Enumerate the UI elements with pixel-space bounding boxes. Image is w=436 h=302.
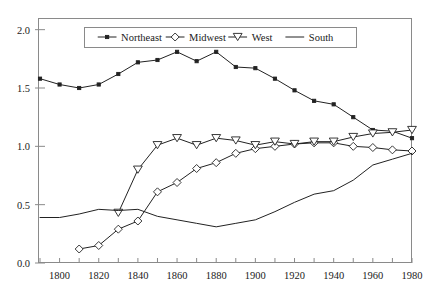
chart-legend: NortheastMidwestWestSouth [85, 28, 357, 48]
marker-filled-square [117, 72, 120, 75]
y-tick-label: 0.0 [17, 258, 30, 269]
x-tick-label: 1980 [402, 270, 423, 281]
marker-filled-square [106, 35, 109, 38]
marker-filled-square [313, 99, 316, 102]
marker-filled-square [136, 61, 139, 64]
x-tick-label: 1880 [206, 270, 227, 281]
x-tick-label: 1820 [88, 270, 109, 281]
marker-filled-square [234, 65, 237, 68]
y-tick-label: 1.0 [17, 141, 30, 152]
chart-page: 1800182018401860188019001920194019601980… [0, 0, 436, 302]
legend-label: South [309, 32, 334, 43]
marker-filled-square [352, 116, 355, 119]
marker-filled-square [97, 83, 100, 86]
marker-filled-square [293, 89, 296, 92]
marker-filled-square [78, 86, 81, 89]
marker-filled-square [156, 58, 159, 61]
legend-label: Midwest [189, 32, 226, 43]
x-tick-label: 1960 [362, 270, 383, 281]
legend-item-midwest[interactable]: Midwest [166, 32, 226, 43]
x-tick-label: 1800 [49, 270, 70, 281]
x-tick-label: 1840 [127, 270, 148, 281]
marker-filled-square [195, 60, 198, 63]
y-tick-label: 1.5 [17, 83, 30, 94]
x-tick-label: 1900 [245, 270, 266, 281]
marker-filled-square [215, 50, 218, 53]
y-tick-label: 0.5 [17, 200, 30, 211]
line-chart: 1800182018401860188019001920194019601980… [0, 0, 436, 302]
x-tick-label: 1940 [323, 270, 344, 281]
legend-label: West [252, 32, 273, 43]
y-tick-label: 2.0 [17, 25, 30, 36]
legend-label: Northeast [121, 32, 162, 43]
marker-filled-square [332, 103, 335, 106]
marker-filled-square [410, 137, 413, 140]
x-tick-label: 1860 [167, 270, 188, 281]
marker-filled-square [175, 50, 178, 53]
marker-filled-square [58, 83, 61, 86]
x-tick-label: 1920 [284, 270, 305, 281]
marker-filled-square [254, 67, 257, 70]
marker-filled-square [38, 77, 41, 80]
marker-filled-square [273, 77, 276, 80]
